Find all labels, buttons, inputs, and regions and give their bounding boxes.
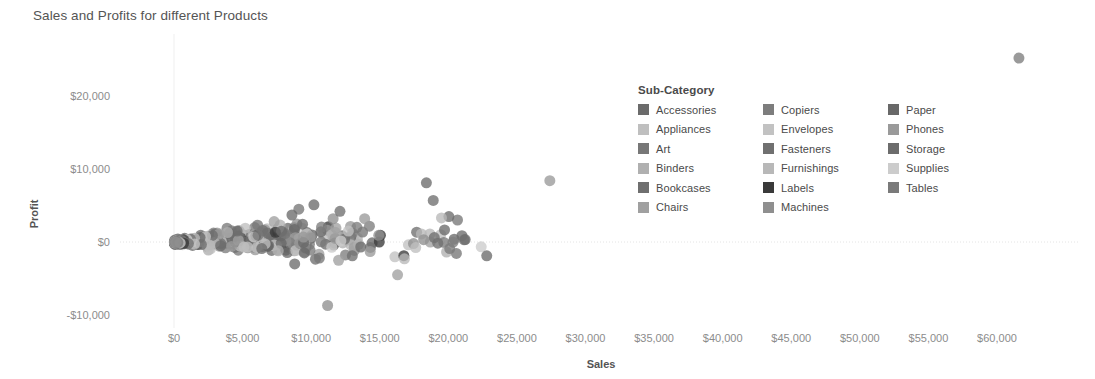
legend-item-accessories[interactable]: Accessories (638, 100, 763, 120)
legend-column-1: AccessoriesAppliancesArtBindersBookcases… (638, 100, 763, 217)
scatter-point[interactable] (365, 246, 376, 257)
scatter-point[interactable] (460, 234, 471, 245)
scatter-point[interactable] (330, 223, 341, 234)
scatter-point[interactable] (399, 253, 410, 264)
x-axis-tick-label: $40,000 (703, 332, 743, 344)
scatter-point[interactable] (335, 235, 346, 246)
scatter-point[interactable] (418, 234, 429, 245)
scatter-point[interactable] (171, 237, 182, 248)
legend-item-bookcases[interactable]: Bookcases (638, 178, 763, 198)
legend-item-label: Storage (906, 143, 945, 155)
scatter-point[interactable] (232, 226, 243, 237)
scatter-point[interactable] (252, 220, 263, 231)
scatter-point[interactable] (410, 242, 421, 253)
scatter-point[interactable] (253, 230, 264, 241)
scatter-point[interactable] (299, 247, 310, 258)
x-axis-tick-label: $0 (168, 332, 180, 344)
y-axis-tick-label: $20,000 (70, 90, 110, 102)
legend-swatch-icon (763, 202, 774, 213)
legend-swatch-icon (638, 163, 649, 174)
y-axis-title: Profit (28, 200, 40, 229)
scatter-point[interactable] (297, 219, 308, 230)
scatter-point[interactable] (392, 269, 403, 280)
legend-swatch-icon (763, 104, 774, 115)
legend-item-copiers[interactable]: Copiers (763, 100, 888, 120)
legend-item-tables[interactable]: Tables (888, 178, 1008, 198)
scatter-point[interactable] (276, 226, 287, 237)
legend-item-fasteners[interactable]: Fasteners (763, 139, 888, 159)
scatter-point[interactable] (215, 240, 226, 251)
legend-item-label: Tables (906, 182, 938, 194)
scatter-point[interactable] (334, 206, 345, 217)
legend-swatch-icon (638, 143, 649, 154)
legend-item-label: Binders (656, 162, 694, 174)
scatter-point[interactable] (316, 236, 327, 247)
legend-item-chairs[interactable]: Chairs (638, 198, 763, 218)
legend-item-envelopes[interactable]: Envelopes (763, 120, 888, 140)
scatter-point[interactable] (308, 199, 319, 210)
scatter-point[interactable] (439, 224, 450, 235)
x-axis: $0$5,000$10,000$15,000$20,000$25,000$30,… (0, 332, 1095, 352)
scatter-point[interactable] (256, 243, 267, 254)
scatter-point[interactable] (316, 222, 327, 233)
legend-item-supplies[interactable]: Supplies (888, 159, 1008, 179)
scatter-point[interactable] (429, 232, 440, 243)
legend-swatch-icon (888, 124, 899, 135)
legend-title: Sub-Category (638, 84, 1038, 96)
x-axis-tick-label: $55,000 (909, 332, 949, 344)
legend-swatch-icon (888, 104, 899, 115)
y-axis-tick-label: -$10,000 (67, 309, 110, 321)
scatter-point[interactable] (444, 243, 455, 254)
legend-item-binders[interactable]: Binders (638, 159, 763, 179)
legend-item-appliances[interactable]: Appliances (638, 120, 763, 140)
legend-item-label: Bookcases (656, 182, 711, 194)
legend-item-paper[interactable]: Paper (888, 100, 1008, 120)
scatter-point[interactable] (314, 253, 325, 264)
scatter-point[interactable] (322, 300, 333, 311)
legend: Sub-Category AccessoriesAppliancesArtBin… (638, 84, 1038, 217)
scatter-point[interactable] (343, 226, 354, 237)
scatter-point[interactable] (273, 245, 284, 256)
x-axis-tick-label: $5,000 (226, 332, 260, 344)
legend-item-machines[interactable]: Machines (763, 198, 888, 218)
scatter-point[interactable] (269, 216, 280, 227)
x-axis-tick-label: $10,000 (291, 332, 331, 344)
scatter-point[interactable] (355, 242, 366, 253)
scatter-point[interactable] (436, 212, 447, 223)
scatter-point[interactable] (421, 177, 432, 188)
legend-swatch-icon (763, 163, 774, 174)
legend-item-label: Copiers (781, 104, 820, 116)
scatter-point[interactable] (333, 255, 344, 266)
legend-item-furnishings[interactable]: Furnishings (763, 159, 888, 179)
scatter-point[interactable] (1013, 53, 1024, 64)
scatter-point[interactable] (428, 195, 439, 206)
legend-item-phones[interactable]: Phones (888, 120, 1008, 140)
scatter-point[interactable] (238, 242, 249, 253)
x-axis-tick-label: $25,000 (497, 332, 537, 344)
legend-item-art[interactable]: Art (638, 139, 763, 159)
scatter-point[interactable] (359, 213, 370, 224)
legend-item-label: Envelopes (781, 123, 833, 135)
scatter-point[interactable] (347, 250, 358, 261)
legend-item-label: Paper (906, 104, 936, 116)
legend-item-labels[interactable]: Labels (763, 178, 888, 198)
y-axis: Profit $20,000$10,000$0-$10,000 (0, 34, 118, 328)
legend-item-label: Chairs (656, 201, 688, 213)
scatter-point[interactable] (226, 241, 237, 252)
scatter-point[interactable] (373, 230, 384, 241)
legend-item-label: Machines (781, 201, 829, 213)
legend-item-label: Furnishings (781, 162, 839, 174)
scatter-point[interactable] (289, 258, 300, 269)
legend-item-storage[interactable]: Storage (888, 139, 1008, 159)
legend-swatch-icon (763, 124, 774, 135)
legend-swatch-icon (638, 124, 649, 135)
legend-item-label: Labels (781, 182, 814, 194)
scatter-point[interactable] (544, 175, 555, 186)
legend-item-label: Phones (906, 123, 944, 135)
scatter-point[interactable] (286, 209, 297, 220)
x-axis-tick-label: $45,000 (771, 332, 811, 344)
chart-title: Sales and Profits for different Products (33, 8, 268, 23)
scatter-point[interactable] (298, 232, 309, 243)
legend-item-label: Fasteners (781, 143, 831, 155)
scatter-point[interactable] (481, 250, 492, 261)
